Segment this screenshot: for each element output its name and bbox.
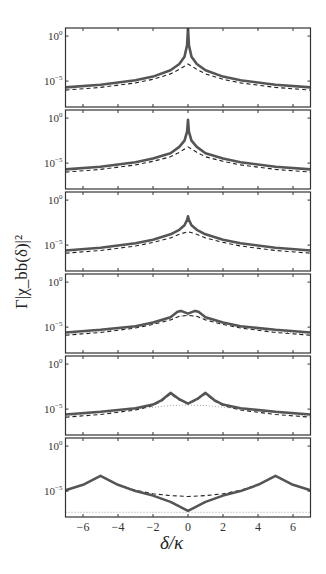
axes-frame bbox=[66, 356, 311, 435]
solid-curve bbox=[66, 120, 311, 169]
panel-6: 10010−5−6−4−20246 bbox=[44, 438, 310, 534]
solid-curve bbox=[66, 311, 311, 333]
x-tick-label: −4 bbox=[112, 520, 125, 534]
dashed-curve bbox=[66, 232, 311, 254]
panel-1: 10010−5 bbox=[44, 28, 310, 107]
x-tick-label: 4 bbox=[255, 520, 261, 534]
stacked-log-plots: 10010−510010−510010−510010−510010−510010… bbox=[0, 0, 326, 574]
axes-frame bbox=[66, 192, 311, 271]
dashed-curve bbox=[66, 64, 311, 90]
panel-3: 10010−5 bbox=[44, 192, 310, 271]
y-tick-label: 10−5 bbox=[44, 238, 63, 251]
y-axis-label: Γ|χ_bb(δ)|² bbox=[12, 202, 32, 342]
dashed-curve bbox=[66, 147, 311, 172]
y-tick-label: 10−5 bbox=[44, 74, 63, 87]
x-tick-label: −2 bbox=[147, 520, 160, 534]
figure: 10010−510010−510010−510010−510010−510010… bbox=[0, 0, 326, 574]
y-tick-label: 100 bbox=[48, 439, 63, 452]
solid-curve bbox=[66, 393, 311, 415]
y-tick-label: 100 bbox=[48, 193, 63, 206]
panel-4: 10010−5 bbox=[44, 274, 310, 353]
x-axis-label: δ/κ bbox=[160, 532, 183, 554]
dotted-curve bbox=[66, 315, 311, 334]
y-tick-label: 10−5 bbox=[44, 484, 63, 497]
y-tick-label: 10−5 bbox=[44, 320, 63, 333]
dashed-curve bbox=[66, 315, 311, 335]
y-tick-label: 100 bbox=[48, 357, 63, 370]
y-tick-label: 10−5 bbox=[44, 156, 63, 169]
y-tick-label: 10−5 bbox=[44, 402, 63, 415]
x-tick-label: 0 bbox=[185, 520, 191, 534]
x-tick-label: 2 bbox=[220, 520, 226, 534]
y-tick-label: 100 bbox=[48, 29, 63, 42]
panel-2: 10010−5 bbox=[44, 110, 310, 189]
y-tick-label: 100 bbox=[48, 275, 63, 288]
solid-curve bbox=[66, 28, 311, 87]
x-tick-label: 6 bbox=[290, 520, 296, 534]
dashed-curve bbox=[118, 485, 258, 497]
x-tick-label: −6 bbox=[77, 520, 90, 534]
solid-curve bbox=[66, 476, 311, 511]
panel-5: 10010−5 bbox=[44, 356, 310, 435]
solid-curve bbox=[66, 216, 311, 250]
y-tick-label: 100 bbox=[48, 111, 63, 124]
